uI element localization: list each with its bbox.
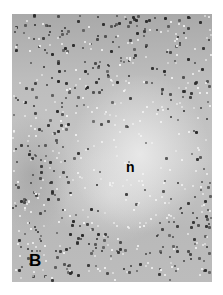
texture-speck: [150, 218, 152, 220]
nucleus-dot: [95, 265, 97, 267]
nucleus-dot: [76, 105, 78, 107]
texture-speck: [137, 39, 139, 41]
nucleus-dot: [72, 220, 75, 223]
nucleus-dot: [206, 246, 208, 248]
nucleus-dot: [30, 182, 32, 184]
nucleus-dot: [208, 271, 211, 274]
texture-speck: [91, 222, 93, 224]
nucleus-dot: [45, 155, 47, 157]
texture-speck: [151, 267, 153, 269]
nucleus-dot: [176, 225, 179, 228]
texture-speck: [137, 245, 139, 247]
nucleus-dot: [87, 264, 90, 267]
nucleus-dot: [23, 32, 25, 34]
nucleus-dot: [97, 35, 99, 37]
nucleus-dot: [156, 29, 158, 31]
texture-speck: [112, 182, 114, 184]
nucleus-dot: [57, 80, 60, 83]
texture-speck: [116, 75, 118, 77]
nucleus-dot: [34, 82, 37, 85]
texture-speck: [168, 202, 170, 204]
texture-speck: [20, 277, 22, 279]
texture-speck: [131, 42, 133, 44]
nucleus-dot: [13, 114, 15, 116]
texture-speck: [90, 229, 92, 231]
nucleus-dot: [62, 171, 65, 174]
texture-speck: [206, 173, 208, 175]
texture-speck: [75, 112, 77, 114]
nucleus-dot: [90, 208, 93, 211]
texture-speck: [39, 45, 41, 47]
nucleus-dot: [68, 264, 71, 267]
texture-speck: [99, 270, 101, 272]
texture-speck: [82, 97, 84, 99]
texture-speck: [127, 42, 129, 44]
nucleus-dot: [88, 243, 90, 245]
texture-speck: [161, 106, 163, 108]
texture-speck: [167, 49, 169, 51]
texture-speck: [61, 43, 63, 45]
texture-speck: [181, 159, 183, 161]
texture-speck: [160, 31, 162, 33]
nucleus-dot: [65, 248, 68, 251]
texture-speck: [146, 106, 148, 108]
nucleus-dot: [116, 15, 118, 17]
nucleus-dot: [149, 252, 151, 254]
nucleus-dot: [190, 226, 193, 229]
texture-speck: [199, 92, 201, 94]
texture-speck: [167, 30, 169, 32]
texture-speck: [43, 225, 45, 227]
texture-speck: [62, 111, 64, 113]
nucleus-dot: [104, 35, 107, 38]
texture-speck: [171, 77, 173, 79]
nucleus-dot: [102, 23, 105, 26]
texture-speck: [69, 88, 71, 90]
nucleus-dot: [40, 240, 42, 242]
texture-speck: [30, 211, 32, 213]
nucleus-dot: [191, 153, 193, 155]
texture-speck: [143, 225, 145, 227]
texture-speck: [44, 160, 46, 162]
nucleus-dot: [192, 221, 195, 224]
texture-speck: [122, 185, 124, 187]
nucleus-dot: [24, 233, 26, 235]
nucleus-dot: [39, 212, 42, 215]
nucleus-dot: [177, 182, 179, 184]
texture-speck: [44, 245, 46, 247]
texture-speck: [28, 201, 30, 203]
nucleus-dot: [98, 78, 100, 80]
nucleus-dot: [68, 91, 71, 94]
nucleus-dot: [102, 246, 105, 249]
nucleus-dot: [34, 24, 36, 26]
texture-speck: [56, 188, 58, 190]
nucleus-dot: [187, 27, 190, 30]
texture-speck: [87, 106, 89, 108]
nucleus-dot: [51, 190, 54, 193]
texture-speck: [145, 222, 147, 224]
cell-nuclei-layer: [12, 14, 212, 282]
texture-speck: [17, 181, 19, 183]
texture-speck: [142, 111, 144, 113]
texture-speck: [49, 44, 51, 46]
texture-speck: [35, 117, 37, 119]
texture-speck: [18, 230, 20, 232]
nucleus-dot: [204, 200, 207, 203]
nucleus-dot: [148, 19, 151, 22]
texture-speck: [66, 52, 68, 54]
texture-speck: [65, 125, 67, 127]
nucleus-dot: [194, 196, 196, 198]
nucleus-dot: [164, 74, 166, 76]
nucleus-dot: [67, 123, 70, 126]
texture-speck: [66, 89, 68, 91]
texture-speck: [205, 82, 207, 84]
texture-speck: [196, 242, 198, 244]
nucleus-dot: [125, 18, 127, 20]
nucleus-dot: [203, 260, 205, 262]
texture-speck: [24, 209, 26, 211]
nucleus-dot: [200, 189, 202, 191]
texture-speck: [104, 113, 106, 115]
nucleus-dot: [110, 50, 113, 53]
texture-speck: [60, 120, 62, 122]
nucleus-dot: [118, 46, 120, 48]
nucleus-dot: [67, 30, 70, 33]
